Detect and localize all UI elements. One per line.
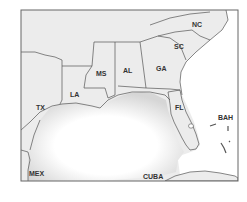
lake-okeechobee bbox=[189, 124, 194, 128]
label-ms: MS bbox=[96, 70, 107, 77]
label-nc: NC bbox=[192, 21, 202, 28]
label-bah: BAH bbox=[218, 114, 233, 121]
label-ga: GA bbox=[156, 65, 167, 72]
label-la: LA bbox=[70, 91, 79, 98]
label-sc: SC bbox=[174, 43, 184, 50]
label-fl: FL bbox=[175, 104, 184, 111]
map: NC SC GA AL MS LA TX FL BAH MEX CUBA bbox=[0, 0, 247, 202]
label-cuba: CUBA bbox=[143, 173, 163, 180]
label-tx: TX bbox=[36, 104, 45, 111]
label-mex: MEX bbox=[29, 170, 45, 177]
label-al: AL bbox=[123, 67, 133, 74]
